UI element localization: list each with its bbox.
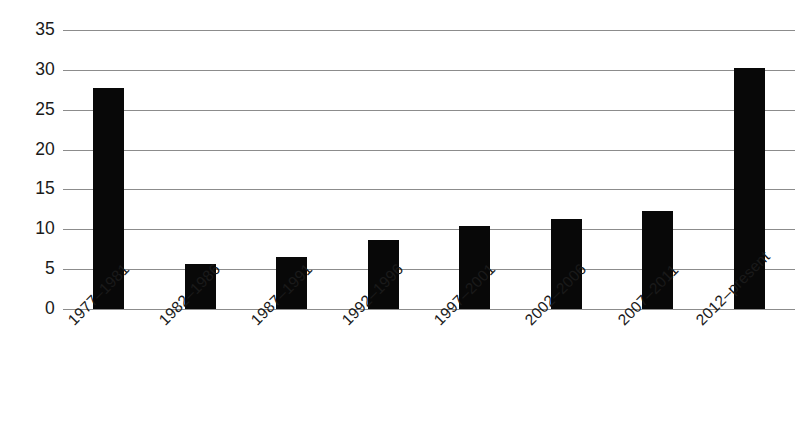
- y-tick-label: 25: [9, 101, 55, 119]
- y-tick-label: 30: [9, 61, 55, 79]
- x-axis: 1977–19811982–19861987–19911992–19961997…: [63, 309, 795, 444]
- bar-chart: 05101520253035 1977–19811982–19861987–19…: [0, 0, 811, 444]
- y-tick-label: 0: [9, 300, 55, 318]
- y-tick-label: 15: [9, 180, 55, 198]
- y-axis: 05101520253035: [0, 30, 55, 309]
- y-tick-label: 10: [9, 220, 55, 238]
- y-tick-label: 5: [9, 260, 55, 278]
- y-tick-label: 35: [9, 21, 55, 39]
- bars-layer: [63, 30, 795, 309]
- y-tick-label: 20: [9, 141, 55, 159]
